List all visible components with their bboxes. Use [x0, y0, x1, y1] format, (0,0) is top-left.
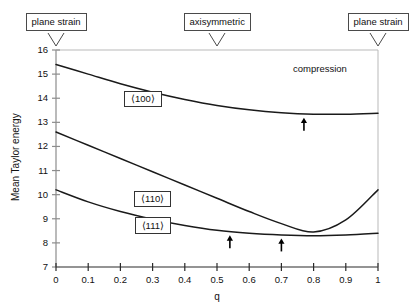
y-tick-label: 13: [32, 116, 48, 127]
x-axis-title: q: [197, 291, 237, 302]
x-tick-label: 0: [44, 274, 68, 285]
y-tick-label: 15: [32, 68, 48, 79]
callout-tail-left-plane-strain: [48, 33, 64, 46]
x-tick-label: 0.8: [302, 274, 326, 285]
arrow-left: [227, 235, 233, 248]
x-tick-label: 0.7: [269, 274, 293, 285]
callout-left-plane-strain: plane strain: [26, 13, 87, 31]
label-100: ⟨100⟩: [124, 91, 162, 108]
y-tick-label: 7: [32, 261, 48, 272]
plot-svg: [0, 0, 417, 308]
x-tick-label: 0.2: [108, 274, 132, 285]
y-tick-label: 16: [32, 44, 48, 55]
x-tick-label: 0.4: [173, 274, 197, 285]
y-tick-label: 8: [32, 237, 48, 248]
arrow-upper: [301, 118, 307, 131]
x-tick-label: 0.6: [237, 274, 261, 285]
x-tick-label: 1: [366, 274, 390, 285]
y-tick-label: 11: [32, 165, 48, 176]
callout-tail-axisymmetric: [209, 33, 225, 46]
x-tick-label: 0.1: [76, 274, 100, 285]
label-110: ⟨110⟩: [134, 191, 171, 208]
y-tick-label: 12: [32, 140, 48, 151]
annotation-compression: compression: [293, 63, 347, 74]
y-axis-title: Mean Taylor energy: [10, 113, 21, 201]
arrow-right: [278, 238, 284, 251]
x-tick-label: 0.9: [334, 274, 358, 285]
callout-right-plane-strain: plane strain: [348, 13, 409, 31]
y-tick-label: 10: [32, 189, 48, 200]
curve-110: [56, 132, 378, 232]
x-tick-label: 0.5: [205, 274, 229, 285]
y-tick-label: 14: [32, 92, 48, 103]
x-tick-label: 0.3: [141, 274, 165, 285]
y-tick-label: 9: [32, 213, 48, 224]
callout-axisymmetric: axisymmetric: [184, 13, 251, 31]
taylor-energy-figure: plane strainaxisymmetricplane strain⟨100…: [0, 0, 417, 308]
label-111: ⟨111⟩: [135, 217, 171, 234]
callout-tail-right-plane-strain: [370, 33, 386, 46]
